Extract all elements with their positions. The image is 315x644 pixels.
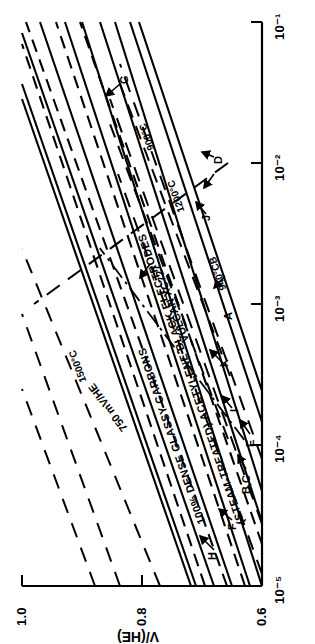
y-axis-title: V/(HE) (117, 629, 159, 644)
point-label-i: I (228, 409, 240, 412)
y-tick-label-08: 0.8 (134, 607, 149, 626)
point-label-j: J (200, 215, 212, 221)
point-label-bc: B,C (240, 475, 252, 494)
point-label-k: K (218, 359, 230, 367)
x-tick-label-3: 10⁻³ (272, 295, 287, 322)
x-tick-label-5: 10⁻¹ (272, 13, 287, 40)
polarization-chart: 10⁻⁵ 10⁻⁴ 10⁻³ 10⁻² 10⁻¹ 0.6 0.8 1.0 V/(… (0, 0, 315, 644)
curves-glassy-carbon (22, 33, 214, 586)
figure-rotator: 10⁻⁵ 10⁻⁴ 10⁻³ 10⁻² 10⁻¹ 0.6 0.8 1.0 V/(… (0, 0, 315, 644)
point-label-g: G (118, 75, 130, 84)
point-label-h: H (206, 552, 218, 560)
x-tick-label-2: 10⁻⁴ (272, 434, 287, 463)
chart-canvas (0, 0, 315, 644)
figure-page: 10⁻⁵ 10⁻⁴ 10⁻³ 10⁻² 10⁻¹ 0.6 0.8 1.0 V/(… (0, 0, 315, 644)
x-axis-ticks (251, 22, 262, 586)
y-tick-label-06: 0.6 (254, 607, 269, 626)
point-label-d: D (212, 156, 224, 164)
x-tick-label-1: 10⁻⁵ (272, 576, 287, 604)
y-tick-label-10: 1.0 (14, 607, 29, 626)
point-label-a: A (222, 312, 234, 320)
x-tick-label-4: 10⁻² (272, 154, 287, 181)
point-label-e: E (244, 440, 256, 447)
